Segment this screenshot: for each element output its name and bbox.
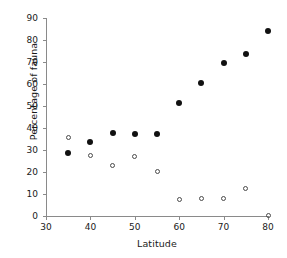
data-point-filled (265, 28, 271, 34)
y-axis-tick-label: 20 (16, 168, 38, 177)
x-axis-tick (135, 217, 136, 220)
y-axis-line (46, 18, 47, 216)
y-axis-tick (43, 194, 46, 195)
data-point-open (155, 169, 160, 174)
y-axis-tick-label: 40 (16, 124, 38, 133)
data-point-open (110, 163, 115, 168)
y-axis-tick (43, 128, 46, 129)
x-axis-tick-label: 60 (166, 223, 192, 232)
y-axis-tick (43, 84, 46, 85)
data-point-open (66, 135, 71, 140)
data-point-filled (65, 150, 71, 156)
y-axis-tick-label: 0 (16, 212, 38, 221)
x-axis-tick (46, 217, 47, 220)
data-point-open (243, 186, 248, 191)
data-point-filled (243, 51, 249, 57)
data-point-filled (221, 60, 227, 66)
data-point-open (221, 196, 226, 201)
plot-area: 0102030405060708090304050607080 (0, 0, 287, 258)
y-axis-tick (43, 62, 46, 63)
y-axis-tick (43, 40, 46, 41)
x-axis-tick-label: 30 (33, 223, 59, 232)
data-point-filled (110, 130, 116, 136)
data-point-filled (87, 139, 93, 145)
y-axis-tick-label: 60 (16, 80, 38, 89)
y-axis-tick (43, 172, 46, 173)
x-axis-tick-label: 50 (122, 223, 148, 232)
x-axis-tick-label: 70 (211, 223, 237, 232)
x-axis-line (46, 216, 269, 217)
x-axis-tick (179, 217, 180, 220)
scatter-plot-figure: Percentage of fauna Latitude 01020304050… (0, 0, 287, 258)
y-axis-tick (43, 106, 46, 107)
data-point-filled (198, 80, 204, 86)
y-axis-tick-label: 10 (16, 190, 38, 199)
data-point-filled (132, 131, 138, 137)
x-axis-tick (224, 217, 225, 220)
data-point-filled (154, 131, 160, 137)
data-point-open (88, 153, 93, 158)
data-point-open (132, 154, 137, 159)
data-point-open (199, 196, 204, 201)
y-axis-tick-label: 30 (16, 146, 38, 155)
y-axis-tick-label: 80 (16, 36, 38, 45)
data-point-open (177, 197, 182, 202)
y-axis-tick-label: 50 (16, 102, 38, 111)
x-axis-tick-label: 40 (77, 223, 103, 232)
x-axis-tick-label: 80 (255, 223, 281, 232)
data-point-filled (176, 100, 182, 106)
data-point-open (266, 213, 271, 218)
y-axis-tick-label: 90 (16, 14, 38, 23)
x-axis-tick (90, 217, 91, 220)
y-axis-tick (43, 18, 46, 19)
y-axis-tick-label: 70 (16, 58, 38, 67)
y-axis-tick (43, 150, 46, 151)
